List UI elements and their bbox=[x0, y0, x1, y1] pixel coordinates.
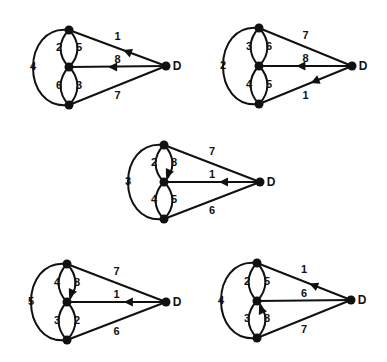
upper-left-edge-label: 3 bbox=[246, 40, 252, 52]
top-to-d-edge-label: 1 bbox=[301, 263, 307, 275]
graph-diagram-5: D42538167 bbox=[218, 259, 367, 343]
middle-vertex bbox=[63, 298, 72, 307]
graph-diagram-2: D23645781 bbox=[220, 24, 368, 109]
vertex-d-label: D bbox=[267, 175, 276, 189]
outer-edge-label: 4 bbox=[218, 294, 225, 306]
outer-arc-edge bbox=[223, 28, 259, 105]
graph-diagram-4: D54832716 bbox=[28, 260, 182, 345]
top-vertex bbox=[63, 260, 72, 269]
vertex-d bbox=[256, 178, 265, 187]
top-vertex bbox=[255, 24, 264, 33]
outer-arc-edge bbox=[31, 264, 67, 341]
lower-right-edge-label: 3 bbox=[76, 79, 82, 91]
bottom-vertex bbox=[255, 100, 264, 109]
top-to-d-edge-label: 7 bbox=[302, 29, 308, 41]
bot-to-d-edge-label: 7 bbox=[114, 89, 120, 101]
graph-diagram-3: D32845716 bbox=[125, 141, 276, 224]
mid-to-d-edge-label: 8 bbox=[302, 52, 308, 64]
top-vertex bbox=[160, 141, 169, 150]
lower-left-edge-label: 4 bbox=[151, 193, 158, 205]
lower-left-edge-label: 6 bbox=[56, 79, 62, 91]
outer-edge-label: 5 bbox=[28, 295, 34, 307]
upper-left-edge-label: 2 bbox=[151, 156, 157, 168]
top-to-d-edge-label: 7 bbox=[209, 145, 215, 157]
arrow-icon bbox=[219, 178, 228, 187]
mid-to-d-edge bbox=[257, 300, 351, 301]
top-vertex bbox=[253, 259, 262, 268]
vertex-d bbox=[162, 298, 171, 307]
middle-vertex bbox=[65, 63, 74, 72]
arrow-icon bbox=[124, 298, 133, 307]
mid-to-d-edge-label: 6 bbox=[301, 287, 307, 299]
vertex-d-label: D bbox=[173, 295, 182, 309]
vertex-d-label: D bbox=[358, 293, 367, 307]
upper-right-edge-label: 5 bbox=[76, 41, 82, 53]
vertex-d bbox=[162, 62, 171, 71]
bot-to-d-edge-label: 6 bbox=[209, 204, 215, 216]
bot-to-d-edge-label: 6 bbox=[113, 325, 119, 337]
upper-right-edge-label: 6 bbox=[266, 40, 272, 52]
outer-edge-label: 2 bbox=[220, 59, 226, 71]
top-vertex bbox=[65, 26, 74, 35]
vertex-d-label: D bbox=[173, 59, 182, 73]
mid-to-d-edge-label: 1 bbox=[113, 288, 119, 300]
upper-left-edge-label: 2 bbox=[56, 41, 62, 53]
middle-vertex bbox=[160, 178, 169, 187]
outer-arc-edge bbox=[128, 145, 164, 220]
bot-to-d-edge-label: 7 bbox=[301, 323, 307, 335]
middle-vertex bbox=[253, 297, 262, 306]
upper-right-edge-label: 8 bbox=[74, 276, 80, 288]
mid-to-d-edge-label: 1 bbox=[209, 168, 215, 180]
outer-edge-label: 3 bbox=[125, 175, 131, 187]
lower-left-edge-label: 4 bbox=[246, 78, 253, 90]
bottom-vertex bbox=[63, 336, 72, 345]
upper-right-edge-label: 8 bbox=[171, 156, 177, 168]
upper-right-edge-label: 5 bbox=[264, 275, 270, 287]
middle-vertex bbox=[255, 62, 264, 71]
vertex-d bbox=[347, 296, 356, 305]
lower-left-edge-label: 3 bbox=[244, 312, 250, 324]
outer-edge-label: 4 bbox=[30, 60, 37, 72]
mid-to-d-edge-label: 8 bbox=[114, 53, 120, 65]
vertex-d-label: D bbox=[359, 59, 368, 73]
outer-arc-edge bbox=[221, 263, 257, 339]
outer-arc-edge bbox=[33, 30, 69, 106]
vertex-d bbox=[348, 62, 357, 71]
upper-left-edge-label: 4 bbox=[54, 276, 61, 288]
graph-diagram-1: D42563187 bbox=[30, 26, 182, 110]
bot-to-d-edge-label: 1 bbox=[302, 89, 308, 101]
graph-figure: D42563187D23645781D32845716D54832716D425… bbox=[0, 0, 387, 362]
arrow-icon bbox=[166, 168, 174, 178]
bottom-vertex bbox=[160, 215, 169, 224]
lower-right-edge-label: 5 bbox=[171, 193, 177, 205]
bottom-vertex bbox=[253, 334, 262, 343]
lower-right-edge-label: 8 bbox=[264, 312, 270, 324]
lower-right-edge-label: 2 bbox=[74, 314, 80, 326]
upper-left-edge-label: 2 bbox=[244, 275, 250, 287]
lower-right-edge-label: 5 bbox=[266, 78, 272, 90]
mid-to-d-edge bbox=[69, 66, 166, 67]
top-to-d-edge-label: 7 bbox=[113, 265, 119, 277]
bottom-vertex bbox=[65, 101, 74, 110]
top-to-d-edge-label: 1 bbox=[114, 30, 120, 42]
arrow-icon bbox=[69, 288, 77, 298]
lower-left-edge-label: 3 bbox=[54, 314, 60, 326]
